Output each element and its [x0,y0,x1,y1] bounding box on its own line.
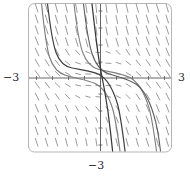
x-axis-right-label: 3 [178,72,185,83]
x-axis-left-label: −3 [3,72,19,83]
y-axis-bottom-label: −3 [88,160,104,171]
slope-field-figure [0,0,190,176]
